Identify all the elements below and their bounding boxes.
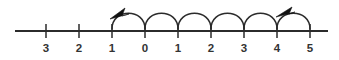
hop-arc-2	[145, 13, 178, 29]
tick-label: 2	[208, 42, 214, 54]
tick-label: 4	[274, 42, 281, 54]
tick-label: 0	[142, 42, 148, 54]
tick-label: 2	[76, 42, 82, 54]
number-line-canvas: 3 2 1 0 1 2 3 4 5	[0, 0, 339, 60]
tick-label: 1	[175, 42, 182, 54]
hop-arc-4	[211, 13, 244, 29]
tick-label: 1	[109, 42, 116, 54]
tick-label: 3	[241, 42, 247, 54]
hop-arc-5	[244, 13, 277, 29]
hop-arrowheads-group	[110, 7, 295, 19]
tick-label: 3	[43, 42, 49, 54]
tick-labels-group: 3 2 1 0 1 2 3 4 5	[43, 42, 314, 54]
number-line-figure: 3 2 1 0 1 2 3 4 5	[0, 0, 339, 60]
tick-label: 5	[307, 42, 314, 54]
hop-arc-3	[178, 13, 211, 29]
